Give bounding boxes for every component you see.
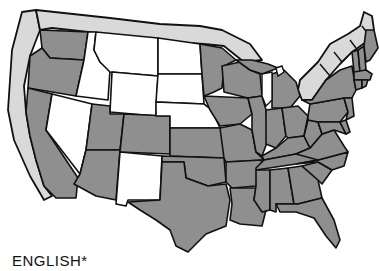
- state-ks: [170, 128, 224, 158]
- us-map: [0, 0, 379, 271]
- state-ct: [354, 80, 362, 90]
- state-nd: [158, 38, 202, 74]
- state-sd: [156, 74, 204, 104]
- state-co: [120, 114, 170, 154]
- map-caption: ENGLISH*: [12, 252, 88, 269]
- state-wy: [110, 72, 158, 116]
- state-fl: [276, 198, 340, 248]
- state-ri: [362, 80, 368, 88]
- state-nm: [116, 152, 162, 206]
- state-ma: [354, 70, 372, 80]
- state-mi: [272, 70, 300, 108]
- state-me: [364, 30, 378, 62]
- lake-michigan: [262, 72, 272, 106]
